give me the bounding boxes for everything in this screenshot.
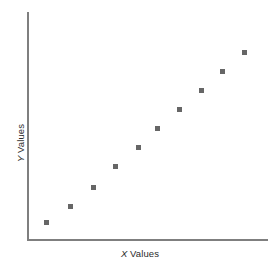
data-point-group xyxy=(44,50,247,225)
data-point-marker xyxy=(177,107,182,112)
data-point-marker xyxy=(68,204,73,209)
data-point-marker xyxy=(155,126,160,131)
data-point-marker xyxy=(91,185,96,190)
data-point-marker xyxy=(220,69,225,74)
y-axis-label: Y Values xyxy=(14,0,28,270)
x-axis-label-text: Values xyxy=(127,248,159,259)
data-point-marker xyxy=(199,88,204,93)
x-axis-label: X Values xyxy=(0,248,280,259)
y-axis-label-text: Values xyxy=(15,124,26,156)
plot-canvas xyxy=(0,0,280,270)
data-point-marker xyxy=(242,50,247,55)
y-axis-label-variable: Y xyxy=(15,156,26,162)
data-point-marker xyxy=(113,164,118,169)
scatter-plot-figure: Y Values X Values xyxy=(0,0,280,270)
data-point-marker xyxy=(44,220,49,225)
data-point-marker xyxy=(136,145,141,150)
axes-group xyxy=(27,12,268,240)
